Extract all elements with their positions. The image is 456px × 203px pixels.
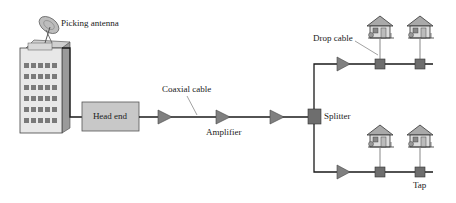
splitter-label: Splitter	[324, 112, 351, 121]
building-icon	[20, 40, 70, 133]
head-end-label: Head end	[82, 112, 138, 121]
house-icon	[367, 125, 394, 147]
amplifier-icon	[337, 165, 350, 179]
house-icon	[407, 16, 434, 38]
tap-box	[375, 167, 385, 177]
antenna-label: Picking antenna	[61, 19, 119, 28]
amplifier-icon	[158, 110, 172, 124]
amplifier-icon	[270, 110, 284, 124]
dish-antenna-icon	[36, 13, 62, 43]
drop-cable-label: Drop cable	[313, 34, 353, 43]
tap-box	[415, 59, 425, 69]
tap-label: Tap	[413, 181, 426, 190]
coaxial-pointer	[187, 96, 197, 115]
tap-box	[415, 167, 425, 177]
house-icon	[407, 125, 434, 147]
drop-cable-pointer	[355, 41, 378, 55]
cable-network-diagram: Picking antenna Head end Coaxial cable A…	[0, 0, 456, 203]
tap-box	[375, 59, 385, 69]
amplifier-icon	[216, 110, 230, 124]
splitter-box	[308, 109, 321, 124]
amplifier-label: Amplifier	[206, 128, 242, 137]
amplifier-icon	[337, 57, 350, 71]
coaxial-cable-label: Coaxial cable	[162, 85, 211, 94]
house-icon	[367, 16, 394, 38]
upper-branch-cable	[314, 64, 433, 109]
diagram-canvas	[0, 0, 456, 203]
